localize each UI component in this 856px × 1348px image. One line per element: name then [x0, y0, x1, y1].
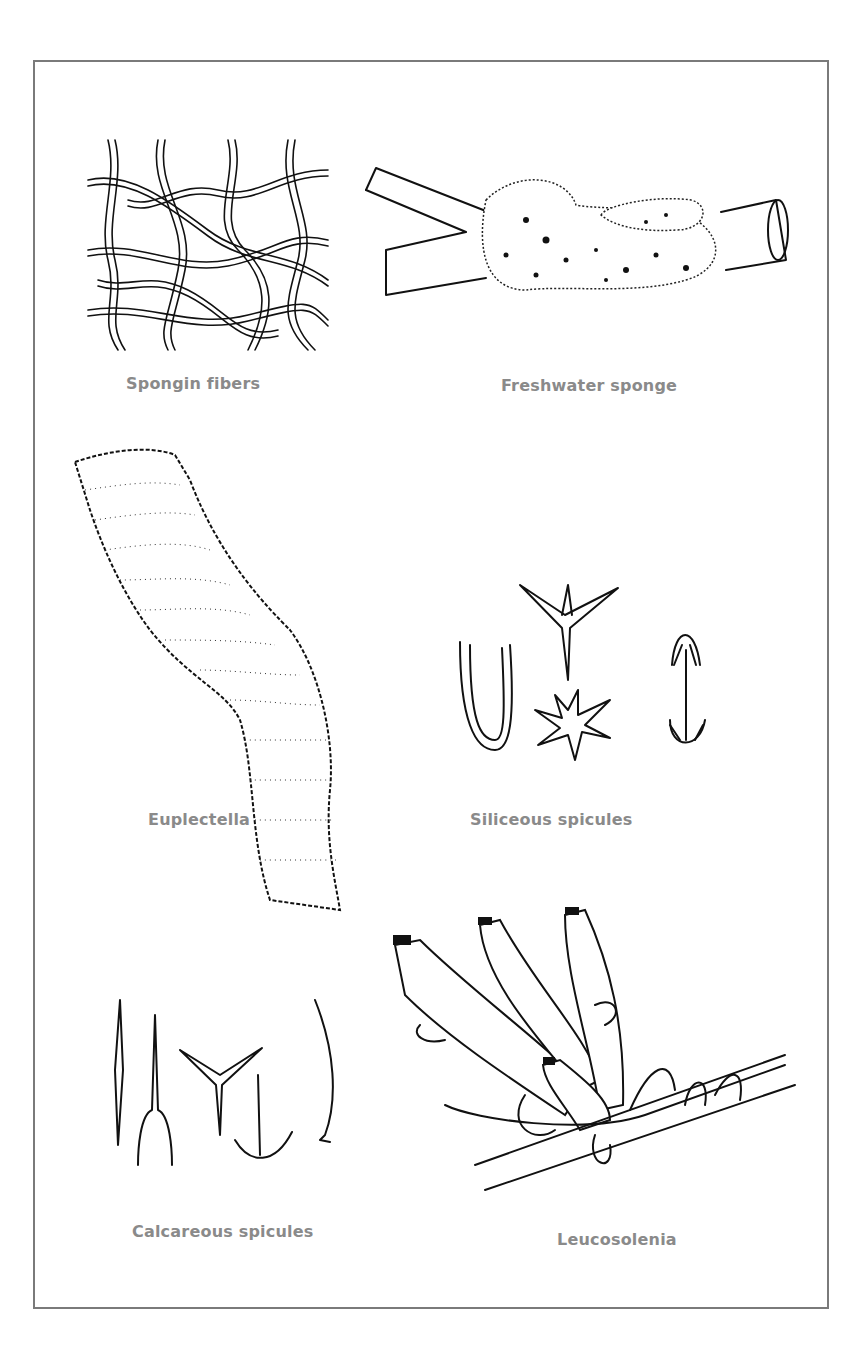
caption-leucosolenia: Leucosolenia — [557, 1230, 677, 1249]
caption-siliceous-spicules: Siliceous spicules — [470, 810, 633, 829]
spongin-fibers-drawing — [88, 140, 328, 350]
caption-spongin-fibers: Spongin fibers — [126, 374, 260, 393]
caption-euplectella: Euplectella — [148, 810, 250, 829]
siliceous-spicules-drawing — [450, 570, 720, 770]
caption-freshwater-sponge: Freshwater sponge — [501, 376, 677, 395]
euplectella-drawing — [70, 440, 360, 920]
calcareous-spicules-drawing — [110, 1000, 340, 1180]
freshwater-sponge-drawing — [366, 160, 796, 320]
leucosolenia-drawing — [385, 905, 805, 1195]
caption-calcareous-spicules: Calcareous spicules — [132, 1222, 314, 1241]
